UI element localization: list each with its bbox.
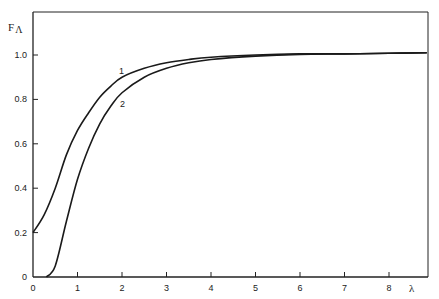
x-tick-label: 3 [164,283,169,293]
x-tick-label: 7 [342,283,347,293]
plot-frame [33,12,428,277]
curve-1 [33,53,427,233]
x-tick-label: 8 [386,283,391,293]
y-axis-label: FΛ [8,21,23,35]
curve-2 [46,53,426,277]
y-tick-label: 0.8 [14,94,27,104]
y-tick-label: 0.6 [14,139,27,149]
x-tick-label: 2 [119,283,124,293]
x-tick-label: 1 [75,283,80,293]
y-tick-label: 0.2 [14,228,27,238]
x-axis-label: λ [409,282,415,294]
y-tick-label: 0.4 [14,183,27,193]
chart: 01234567800.20.40.60.81.0 FΛ λ 1 2 [0,0,439,299]
x-tick-label: 6 [297,283,302,293]
y-tick-label: 0 [22,272,27,282]
axis-ticks: 01234567800.20.40.60.81.0 [14,50,391,293]
curve-2-label: 2 [120,99,125,109]
curves [33,53,427,277]
y-tick-label: 1.0 [14,50,27,60]
x-tick-label: 0 [30,283,35,293]
curve-1-label: 1 [119,66,124,76]
x-tick-label: 5 [253,283,258,293]
x-tick-label: 4 [208,283,213,293]
